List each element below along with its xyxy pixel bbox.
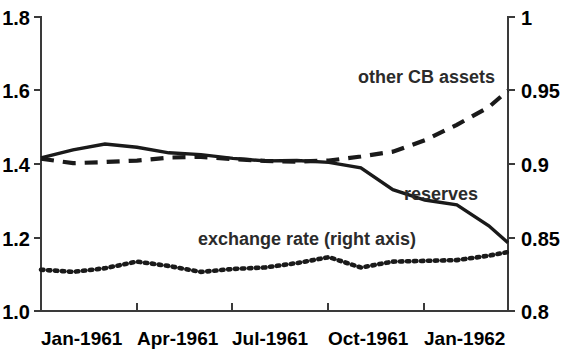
left-axis-tick-labels: 1.8 1.6 1.4 1.2 1.0: [2, 7, 31, 323]
left-axis-label-1-4: 1.4: [2, 154, 31, 176]
x-axis-label-jan-1962: Jan-1962: [424, 328, 505, 349]
right-axis-label-0-95: 0.95: [521, 80, 560, 102]
left-axis-label-1-2: 1.2: [2, 228, 30, 250]
right-axis-label-1: 1: [521, 7, 532, 29]
left-axis-ticks: [34, 17, 41, 311]
series-other-cb-assets: [41, 90, 508, 163]
x-axis-label-jul-1961: Jul-1961: [232, 328, 308, 349]
x-axis-label-jan-1961: Jan-1961: [41, 328, 123, 349]
x-axis-label-apr-1961: Apr-1961: [137, 328, 219, 349]
left-axis-label-1-0: 1.0: [2, 301, 30, 323]
series-exchange-rate: [41, 252, 508, 272]
reserves-label: reserves: [404, 184, 478, 204]
right-axis-label-0-8: 0.8: [521, 301, 549, 323]
x-axis-ticks: [41, 303, 424, 311]
other-cb-assets-label: other CB assets: [358, 67, 495, 87]
left-axis-label-1-8: 1.8: [2, 7, 30, 29]
line-chart-plot: 1.8 1.6 1.4 1.2 1.0 1 0.95 0.9 0.85 0.8 …: [0, 0, 563, 354]
left-axis-label-1-6: 1.6: [2, 80, 30, 102]
right-axis-ticks: [508, 17, 515, 311]
x-axis-label-oct-1961: Oct-1961: [328, 328, 409, 349]
chart-container: 1.8 1.6 1.4 1.2 1.0 1 0.95 0.9 0.85 0.8 …: [0, 0, 563, 354]
right-axis-label-0-9: 0.9: [521, 154, 549, 176]
x-axis-tick-labels: Jan-1961 Apr-1961 Jul-1961 Oct-1961 Jan-…: [41, 328, 505, 349]
right-axis-label-0-85: 0.85: [521, 228, 560, 250]
exchange-rate-label: exchange rate (right axis): [198, 229, 416, 249]
right-axis-tick-labels: 1 0.95 0.9 0.85 0.8: [521, 7, 560, 323]
